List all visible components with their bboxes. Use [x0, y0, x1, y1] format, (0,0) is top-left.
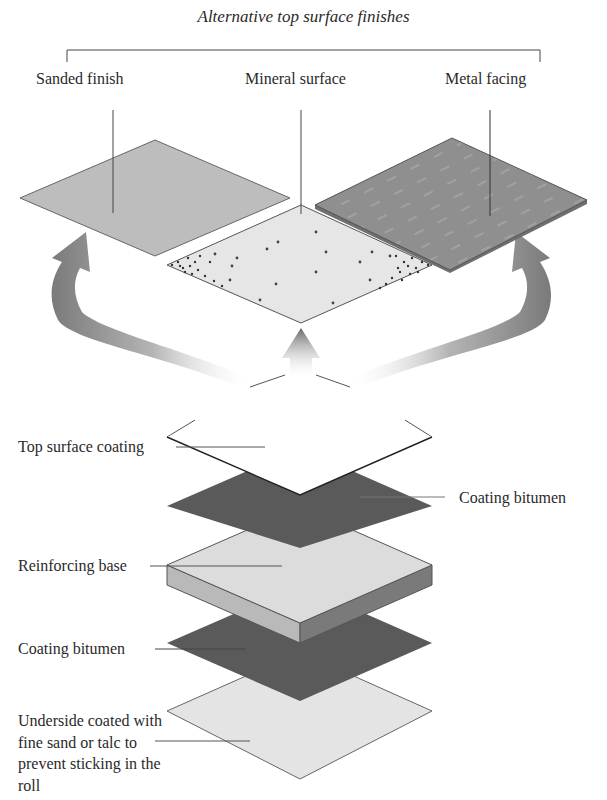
label-top-surface-coating: Top surface coating — [18, 436, 144, 457]
top-surface-coating-layer — [167, 380, 432, 495]
label-coating-bitumen-upper: Coating bitumen — [459, 487, 566, 508]
label-mineral-surface: Mineral surface — [245, 68, 346, 89]
diagram-title: Alternative top surface finishes — [0, 7, 607, 27]
label-reinforcing-base: Reinforcing base — [18, 555, 127, 576]
roofing-felt-diagram — [0, 0, 607, 800]
label-coating-bitumen-lower: Coating bitumen — [18, 638, 125, 659]
label-sanded-finish: Sanded finish — [36, 68, 124, 89]
label-metal-facing: Metal facing — [445, 68, 526, 89]
arrow-to-mineral-icon — [282, 328, 320, 380]
finishes-bracket — [67, 50, 540, 62]
label-underside: Underside coated with fine sand or talc … — [18, 710, 168, 796]
